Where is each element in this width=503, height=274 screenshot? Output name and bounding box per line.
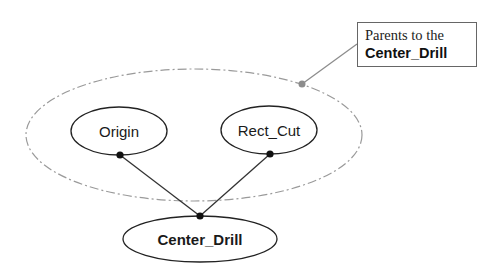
node-center-drill[interactable]: Center_Drill <box>123 216 277 262</box>
node-origin-label: Origin <box>99 123 139 140</box>
callout-anchor-dot <box>299 81 306 88</box>
edge-rect-cut-to-center-drill <box>200 154 270 216</box>
edge-origin-to-center-drill <box>120 155 200 216</box>
rect-cut-connector-dot <box>266 150 273 157</box>
parents-callout-box: Parents to the Center_Drill <box>357 22 477 67</box>
node-origin[interactable]: Origin <box>71 107 167 155</box>
callout-text-line2: Center_Drill <box>365 44 476 62</box>
node-center-drill-label: Center_Drill <box>157 231 242 248</box>
center-drill-connector-dot <box>196 212 203 219</box>
origin-connector-dot <box>116 151 123 158</box>
callout-leader-line <box>302 44 357 84</box>
callout-text-line1: Parents to the <box>365 27 476 44</box>
node-rect-cut-label: Rect_Cut <box>238 122 301 139</box>
node-rect-cut[interactable]: Rect_Cut <box>221 106 317 154</box>
